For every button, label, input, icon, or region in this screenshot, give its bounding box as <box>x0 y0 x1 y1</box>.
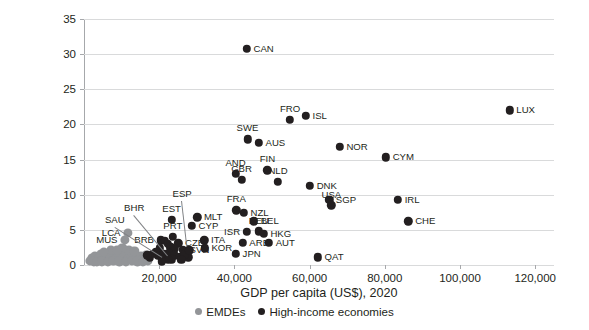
data-point-SWE[interactable] <box>243 135 251 143</box>
data-point-NLD[interactable] <box>274 178 282 186</box>
x-axis-title: GDP per capita (US$), 2020 <box>84 286 554 300</box>
data-point-FRO[interactable] <box>286 115 294 123</box>
x-tick-mark-60000 <box>310 265 311 269</box>
legend-label: High-income economies <box>269 305 393 318</box>
legend-item-high-income-economies[interactable]: High-income economies <box>258 305 393 318</box>
scatter-chart-figure: LCAMUSCANLUXISLFROSWEAUSNORCYMFINANDGBRN… <box>0 0 589 330</box>
point-label-KOR: KOR <box>211 243 232 253</box>
point-label-SWE: SWE <box>237 124 259 134</box>
point-label-FRO: FRO <box>280 104 300 114</box>
point-label-SAU: SAU <box>105 216 125 226</box>
point-label-ISR: ISR <box>224 227 240 237</box>
y-tick-mark-0 <box>80 265 84 266</box>
point-label-EST: EST <box>162 205 181 215</box>
gridline-y-30 <box>84 54 554 55</box>
data-point-NZL[interactable] <box>240 209 248 217</box>
data-point-GBR[interactable] <box>237 176 245 184</box>
y-tick-mark-5 <box>80 230 84 231</box>
x-tick-label-120000: 120,000 <box>514 273 556 285</box>
y-tick-mark-20 <box>80 124 84 125</box>
legend-item-emdes[interactable]: EMDEs <box>195 305 245 318</box>
gridline-y-35 <box>84 19 554 20</box>
x-tick-mark-80000 <box>385 265 386 269</box>
y-tick-mark-10 <box>80 195 84 196</box>
y-tick-label-25: 25 <box>63 84 76 96</box>
gridline-y-20 <box>84 124 554 125</box>
point-label-BHR: BHR <box>124 203 144 213</box>
point-label-IRL: IRL <box>405 195 420 205</box>
data-point-CHE[interactable] <box>404 217 412 225</box>
y-tick-mark-35 <box>80 19 84 20</box>
gridline-y-5 <box>84 230 554 231</box>
data-point-ISR[interactable] <box>243 228 251 236</box>
point-label-NOR: NOR <box>346 142 367 152</box>
point-label-QAT: QAT <box>325 252 344 262</box>
point-label-CYP: CYP <box>199 221 219 231</box>
x-tick-label-80000: 80,000 <box>367 273 402 285</box>
y-tick-label-10: 10 <box>63 190 76 202</box>
point-label-USA: USA <box>322 190 342 200</box>
gridline-y-25 <box>84 89 554 90</box>
y-tick-mark-15 <box>80 160 84 161</box>
y-tick-label-35: 35 <box>63 14 76 26</box>
data-point-ARE[interactable] <box>238 238 246 246</box>
point-label-ISL: ISL <box>313 111 327 121</box>
data-point-NOR[interactable] <box>335 143 343 151</box>
point-label-FRA: FRA <box>227 195 246 205</box>
data-point-ISL[interactable] <box>302 112 310 120</box>
x-tick-mark-120000 <box>535 265 536 269</box>
point-label-FIN: FIN <box>260 155 275 165</box>
data-point-CAN[interactable] <box>243 44 251 52</box>
clipped-title <box>0 0 589 9</box>
point-label-AUT: AUT <box>276 238 295 248</box>
gridline-y-10 <box>84 195 554 196</box>
data-point-IRL[interactable] <box>394 195 402 203</box>
legend-marker-icon <box>195 308 202 315</box>
point-label-PRT: PRT <box>163 222 182 232</box>
point-label-LUX: LUX <box>516 106 535 116</box>
x-tick-mark-20000 <box>159 265 160 269</box>
x-tick-label-60000: 60,000 <box>292 273 327 285</box>
y-tick-mark-25 <box>80 89 84 90</box>
y-axis-title: Number of companies funded per 1 million… <box>0 0 8 60</box>
y-tick-label-0: 0 <box>70 260 76 272</box>
point-label-CHE: CHE <box>415 217 435 227</box>
x-tick-label-40000: 40,000 <box>217 273 252 285</box>
data-point-LUX[interactable] <box>505 106 513 114</box>
data-point-AUT[interactable] <box>265 238 273 246</box>
gridline-y-0 <box>84 265 554 266</box>
chart-legend: EMDEsHigh-income economies <box>0 305 589 318</box>
point-label-CYM: CYM <box>393 153 414 163</box>
data-point-JPN[interactable] <box>232 250 240 258</box>
point-label-DEU: DEU <box>249 216 269 226</box>
point-label-NLD: NLD <box>268 167 287 177</box>
point-label-GBR: GBR <box>231 165 252 175</box>
gridline-y-15 <box>84 160 554 161</box>
data-point-USA[interactable] <box>327 201 335 209</box>
data-point-CYP[interactable] <box>188 221 196 229</box>
plot-area: LCAMUSCANLUXISLFROSWEAUSNORCYMFINANDGBRN… <box>84 19 554 265</box>
data-point-QAT[interactable] <box>314 253 322 261</box>
y-tick-label-15: 15 <box>63 155 76 167</box>
y-tick-label-5: 5 <box>70 225 76 237</box>
x-tick-label-20000: 20,000 <box>142 273 177 285</box>
data-point-DNK[interactable] <box>306 181 314 189</box>
x-tick-mark-40000 <box>234 265 235 269</box>
x-tick-mark-100000 <box>460 265 461 269</box>
data-point[interactable] <box>177 256 185 264</box>
point-label-ESP: ESP <box>173 190 192 200</box>
point-label-MUS: MUS <box>96 235 117 245</box>
y-tick-label-30: 30 <box>63 49 76 61</box>
y-tick-label-20: 20 <box>63 119 76 131</box>
y-tick-mark-30 <box>80 54 84 55</box>
data-point-AUS[interactable] <box>255 138 263 146</box>
point-label-AUS: AUS <box>266 138 286 148</box>
legend-label: EMDEs <box>206 305 245 318</box>
x-tick-label-100000: 100,000 <box>439 273 481 285</box>
point-label-CAN: CAN <box>254 44 274 54</box>
point-label-JPN: JPN <box>243 249 261 259</box>
legend-marker-icon <box>258 308 265 315</box>
